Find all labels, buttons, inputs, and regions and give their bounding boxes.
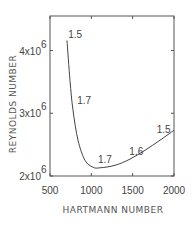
y-tick-label: 4x10 [19, 46, 41, 57]
x-axis-title: HARTMANN NUMBER [63, 205, 164, 215]
curve-annotation: 1.5 [68, 29, 82, 40]
x-tick-label: 2000 [163, 185, 186, 196]
y-tick-exponent: 6 [41, 39, 47, 50]
y-axis-ticks: 2x1063x1064x106 [19, 39, 174, 182]
x-tick-label: 1000 [80, 185, 103, 196]
curve-annotations: 1.51.71.71.61.5 [68, 29, 171, 165]
curve-annotation: 1.7 [98, 154, 112, 165]
x-axis-ticks: 500100015002000 [42, 16, 186, 196]
reynolds-vs-hartmann-chart: 500100015002000 2x1063x1064x106 1.51.71.… [0, 0, 195, 227]
curve-annotation: 1.5 [157, 124, 171, 135]
x-tick-label: 500 [42, 185, 59, 196]
x-tick-label: 1500 [122, 185, 145, 196]
plot-frame [50, 16, 174, 176]
y-axis-title: REYNOLDS NUMBER [8, 55, 18, 153]
y-tick-label: 3x10 [19, 108, 41, 119]
y-tick-exponent: 6 [41, 164, 47, 175]
y-tick-exponent: 6 [41, 101, 47, 112]
curve-annotation: 1.6 [129, 146, 143, 157]
curve-annotation: 1.7 [77, 95, 91, 106]
y-tick-label: 2x10 [19, 171, 41, 182]
